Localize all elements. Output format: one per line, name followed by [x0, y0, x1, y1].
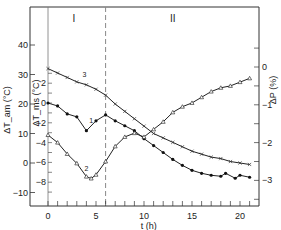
- x-tick-label: 15: [187, 211, 197, 221]
- x-axis-label: t (h): [141, 221, 157, 230]
- marker-filled-circle: [248, 176, 251, 179]
- left-inner-tick-label: −6: [36, 157, 46, 167]
- marker-open-triangle: [123, 135, 127, 139]
- marker-filled-circle: [104, 113, 107, 116]
- marker-cross: [142, 125, 145, 128]
- marker-filled-circle: [66, 112, 69, 115]
- marker-filled-circle: [210, 174, 213, 177]
- marker-filled-circle: [56, 104, 59, 107]
- left-outer-tick-label: 20: [18, 99, 28, 109]
- region-label-1: I: [73, 13, 76, 24]
- marker-open-triangle: [209, 90, 213, 94]
- series-line-1: [48, 103, 250, 178]
- left-inner-tick-label: −4: [36, 138, 46, 148]
- marker-filled-circle: [238, 174, 241, 177]
- marker-open-triangle: [248, 76, 252, 80]
- left-outer-axis-title: ΔT_am (°C): [2, 86, 12, 134]
- marker-filled-circle: [152, 144, 155, 147]
- marker-open-triangle: [46, 133, 50, 137]
- left-outer-tick-label: 40: [18, 40, 28, 50]
- marker-open-triangle: [219, 86, 223, 90]
- right-tick-label: −3: [262, 175, 272, 185]
- marker-cross: [114, 102, 117, 105]
- left-outer-tick-label: 0: [23, 158, 28, 168]
- x-tick-label: 0: [45, 211, 50, 221]
- x-tick-label: 5: [93, 211, 98, 221]
- left-inner-axis-title: ΔT_ms (°C): [31, 79, 41, 126]
- marker-filled-circle: [94, 119, 97, 122]
- curve-label-1: 1: [89, 117, 93, 124]
- x-tick-label: 20: [235, 211, 245, 221]
- curve-label-2: 2: [84, 165, 88, 172]
- left-inner-tick-label: 0: [41, 98, 46, 108]
- marker-filled-circle: [190, 169, 193, 172]
- left-outer-tick-label: −10: [13, 188, 28, 198]
- marker-filled-circle: [200, 172, 203, 175]
- marker-open-triangle: [228, 84, 232, 88]
- marker-filled-circle: [234, 177, 237, 180]
- marker-cross: [133, 117, 136, 120]
- marker-filled-circle: [123, 124, 126, 127]
- marker-open-triangle: [190, 101, 194, 105]
- marker-open-triangle: [200, 95, 204, 99]
- marker-open-triangle: [180, 105, 184, 109]
- left-inner-tick-label: −8: [36, 177, 46, 187]
- chart-svg: III05101520t (h)−10010203040−8−6−4−2020−…: [0, 0, 281, 230]
- marker-filled-circle: [162, 151, 165, 154]
- marker-filled-circle: [85, 129, 88, 132]
- marker-filled-circle: [46, 101, 49, 104]
- chart: III05101520t (h)−10010203040−8−6−4−2020−…: [0, 0, 281, 230]
- region-label-2: II: [170, 13, 176, 24]
- marker-cross: [123, 110, 126, 113]
- marker-filled-circle: [171, 158, 174, 161]
- x-tick-label: 10: [139, 211, 149, 221]
- left-outer-tick-label: 30: [18, 70, 28, 80]
- left-outer-tick-label: 10: [18, 129, 28, 139]
- marker-open-triangle: [238, 80, 242, 84]
- right-tick-label: 0: [262, 62, 267, 72]
- marker-filled-circle: [75, 115, 78, 118]
- right-tick-label: −2: [262, 138, 272, 148]
- right-axis-title: ΔP (%): [268, 76, 278, 104]
- marker-open-triangle: [171, 110, 175, 114]
- marker-filled-circle: [224, 172, 227, 175]
- marker-filled-circle: [181, 164, 184, 167]
- left-inner-tick-label: 2: [41, 78, 46, 88]
- marker-filled-circle: [114, 119, 117, 122]
- curve-label-3: 3: [83, 71, 87, 78]
- marker-filled-circle: [219, 175, 222, 178]
